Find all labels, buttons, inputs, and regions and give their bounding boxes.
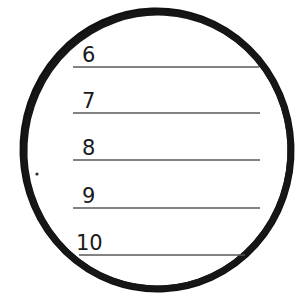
hand-drawn-circle-overstroke bbox=[17, 6, 297, 296]
rule-lines-group bbox=[73, 67, 260, 255]
figure-svg bbox=[0, 0, 306, 301]
hand-drawn-circle bbox=[18, 6, 296, 293]
rule-label-9: 9 bbox=[82, 186, 95, 207]
rule-label-10: 10 bbox=[76, 233, 103, 254]
rule-label-6: 6 bbox=[82, 45, 95, 66]
circle-group bbox=[17, 6, 297, 296]
rule-label-8: 8 bbox=[82, 138, 95, 159]
ink-speck bbox=[35, 172, 38, 175]
rule-label-7: 7 bbox=[82, 91, 95, 112]
figure-canvas: 6 7 8 9 10 bbox=[0, 0, 306, 301]
